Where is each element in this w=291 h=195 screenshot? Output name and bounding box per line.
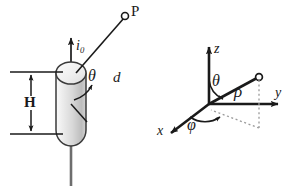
physics-figure: P i0 θ d H z y x ρ θ φ (0, 0, 291, 195)
theta-label-right: θ (212, 73, 220, 89)
x-axis-label: x (157, 124, 163, 138)
distance-d-label: d (113, 70, 121, 85)
height-label: H (24, 95, 36, 110)
rho-label: ρ (234, 83, 242, 100)
figure-vector-canvas (0, 0, 291, 195)
current-label: i0 (76, 39, 84, 54)
phi-label: φ (187, 117, 196, 133)
point-p-label: P (131, 4, 139, 19)
z-axis-label: z (214, 42, 219, 56)
y-axis-label: y (275, 86, 281, 100)
theta-label-left: θ (88, 68, 96, 84)
current-subscript: 0 (80, 45, 84, 55)
cylinder-top-cap (56, 62, 86, 84)
field-point-marker (122, 13, 129, 20)
height-extension-lines (10, 72, 63, 134)
